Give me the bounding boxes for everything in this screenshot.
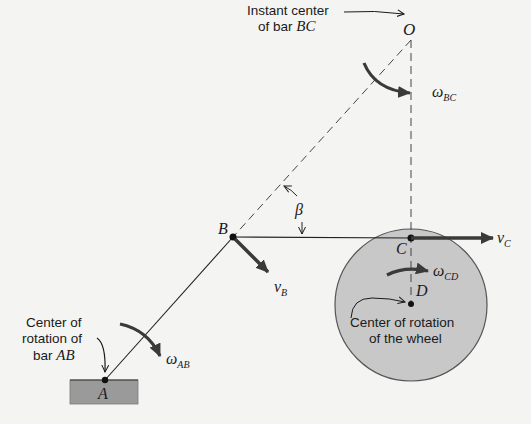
point-a — [102, 377, 108, 383]
instant-center-arrow — [344, 11, 404, 14]
label-a: A — [97, 385, 108, 402]
v-b-label: vB — [274, 278, 287, 298]
v-c-label: vC — [497, 229, 511, 249]
svg-text:Center of: Center of — [26, 315, 82, 330]
omega-bc-label: ωBC — [432, 83, 456, 103]
angle-beta: β — [284, 186, 303, 234]
label-b: B — [218, 220, 228, 237]
v-b-arrow: vB — [235, 239, 287, 298]
point-d — [408, 301, 414, 307]
center-ab-annotation: Center of rotation of bar AB — [22, 315, 105, 372]
svg-text:bar AB: bar AB — [33, 347, 75, 363]
instant-center-annotation: Instant center of bar BC — [247, 3, 404, 34]
beta-label: β — [294, 201, 303, 219]
svg-text:of the wheel: of the wheel — [369, 331, 442, 346]
label-d: D — [415, 282, 428, 299]
svg-text:rotation of: rotation of — [22, 331, 82, 346]
kinematics-diagram: O A B C D Instant center of bar BC ωBC β… — [0, 0, 531, 424]
label-o: O — [403, 20, 415, 39]
svg-text:of bar BC: of bar BC — [258, 18, 316, 34]
svg-text:Center of rotation: Center of rotation — [350, 315, 454, 330]
omega-ab-label: ωAB — [166, 350, 190, 370]
omega-bc-arrow: ωBC — [364, 63, 456, 103]
dashed-line-ob — [233, 40, 411, 237]
svg-text:Instant center: Instant center — [247, 3, 329, 18]
omega-ab-arrow: ωAB — [120, 324, 190, 370]
label-c: C — [396, 240, 407, 257]
